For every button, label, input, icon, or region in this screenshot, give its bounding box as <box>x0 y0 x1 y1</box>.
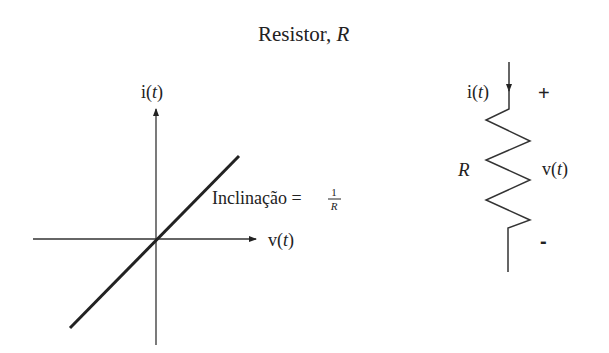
slope-label: Inclinação = 1 R <box>212 186 341 212</box>
y-axis-label: i(t) <box>141 82 163 103</box>
svg-text:1: 1 <box>331 186 337 198</box>
svg-text:Inclinação =: Inclinação = <box>212 188 302 208</box>
resistor-diagram: Resistor, R i(t) v(t) Inclinação = 1 R i… <box>0 0 609 353</box>
diagram-title: Resistor, R <box>258 22 350 46</box>
iv-line <box>70 156 239 328</box>
resistor-symbol: i(t) + R v(t) - <box>457 62 568 272</box>
resistor-label: R <box>457 159 470 180</box>
resistor-zigzag <box>486 88 530 272</box>
current-label: i(t) <box>467 82 489 103</box>
x-axis-label: v(t) <box>268 230 294 251</box>
plus-sign: + <box>538 82 550 104</box>
iv-graph: i(t) v(t) Inclinação = 1 R <box>33 82 341 345</box>
svg-text:R: R <box>330 200 338 212</box>
voltage-label: v(t) <box>542 159 568 180</box>
minus-sign: - <box>540 230 547 252</box>
